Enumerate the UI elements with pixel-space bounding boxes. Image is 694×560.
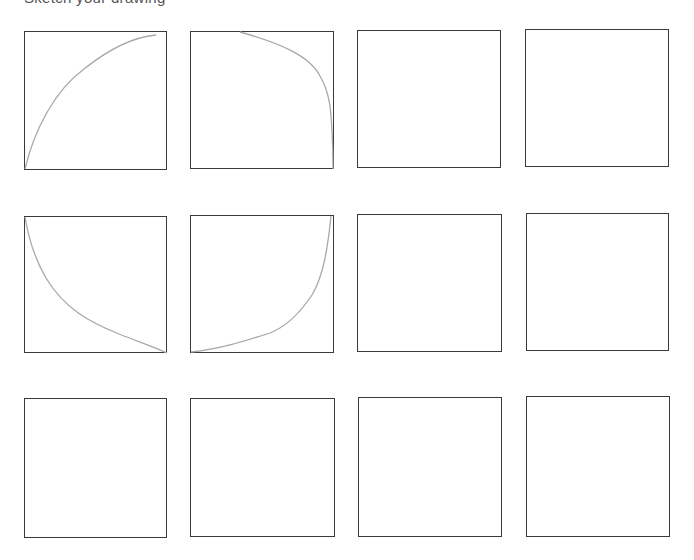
- curve-stroke: [24, 216, 169, 355]
- curve-stroke: [190, 31, 336, 171]
- sketch-panel-12[interactable]: [526, 396, 670, 537]
- sketch-panel-6[interactable]: [190, 215, 334, 353]
- sketch-panel-10[interactable]: [190, 398, 335, 537]
- sketch-panel-7[interactable]: [357, 214, 502, 352]
- cropped-title-text: Sketch your drawing: [24, 0, 166, 6]
- sketch-panel-5[interactable]: [24, 216, 167, 353]
- sketch-panel-1[interactable]: [24, 31, 167, 170]
- sketch-panel-11[interactable]: [358, 397, 502, 537]
- sketch-panel-9[interactable]: [24, 398, 167, 538]
- curve-stroke: [190, 215, 336, 355]
- sketch-panel-3[interactable]: [357, 30, 501, 168]
- sketch-panel-2[interactable]: [190, 31, 334, 169]
- sketch-panel-4[interactable]: [525, 29, 669, 167]
- curve-stroke: [24, 31, 169, 172]
- sketch-panel-8[interactable]: [526, 213, 669, 351]
